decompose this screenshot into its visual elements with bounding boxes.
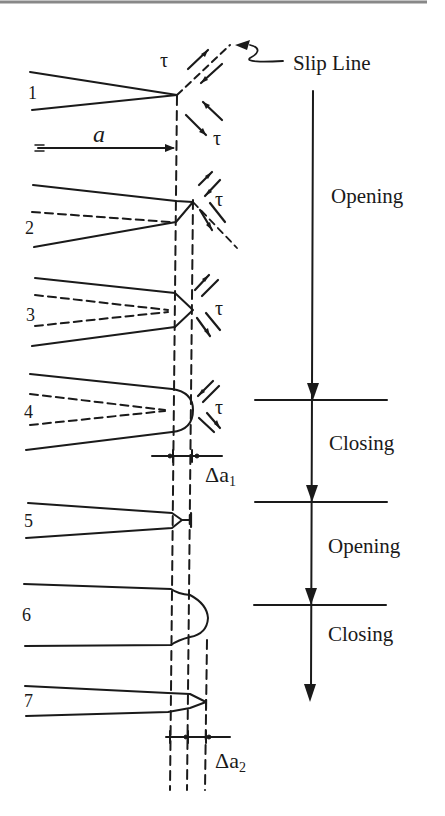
crack-stage-6 bbox=[24, 584, 208, 646]
stage-number-3: 3 bbox=[26, 306, 35, 324]
phase-label-opening-1: Opening bbox=[331, 186, 403, 207]
crack-stage-5 bbox=[26, 503, 191, 538]
dashed-line-first-advance bbox=[187, 200, 193, 790]
stage-number-6: 6 bbox=[22, 606, 31, 624]
stage-number-5: 5 bbox=[24, 512, 33, 530]
phase-timeline bbox=[254, 91, 387, 702]
crack-stage-7 bbox=[25, 686, 230, 743]
shear-stress-label: τ bbox=[215, 397, 223, 417]
stage-number-2: 2 bbox=[25, 219, 34, 237]
crack-stage-2 bbox=[32, 172, 237, 248]
stage-number-7: 7 bbox=[24, 692, 33, 710]
crack-stage-4 bbox=[26, 374, 222, 462]
phase-label-opening-2: Opening bbox=[328, 536, 400, 557]
dashed-line-second-advance bbox=[205, 640, 207, 790]
stage-number-4: 4 bbox=[24, 403, 33, 421]
shear-stress-label: τ bbox=[215, 189, 223, 209]
stage-number-1: 1 bbox=[28, 84, 37, 102]
shear-stress-label: τ bbox=[160, 50, 168, 70]
shear-stress-label: τ bbox=[213, 128, 221, 148]
crack-length-label: a bbox=[93, 122, 105, 146]
slip-line-label: Slip Line bbox=[293, 53, 371, 74]
crack-stage-1 bbox=[30, 40, 283, 152]
increment-label-1: Δa1 bbox=[205, 464, 236, 489]
phase-label-closing-2: Closing bbox=[328, 624, 393, 645]
shear-stress-label: τ bbox=[215, 298, 223, 318]
phase-label-closing-1: Closing bbox=[329, 433, 394, 454]
increment-label-2: Δa2 bbox=[215, 750, 246, 775]
